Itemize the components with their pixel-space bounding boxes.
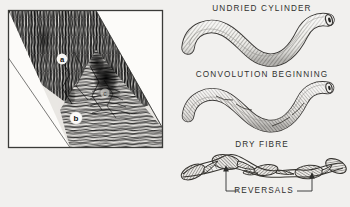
label-dry-fibre: DRY FIBRE: [235, 140, 289, 149]
fibre-stages-svg: [175, 0, 350, 207]
marker-b: b: [70, 112, 82, 124]
label-undried-cylinder: UNDRIED CYLINDER: [212, 4, 311, 13]
micrograph-svg: a c b: [0, 0, 175, 207]
figure-root: a c b: [0, 0, 350, 207]
stage-undried-cylinder: [188, 14, 334, 60]
stage-dry-fibre: [179, 152, 349, 183]
fibre-stages-diagram: UNDRIED CYLINDER CONVOLUTION BEGINNING D…: [175, 0, 350, 207]
label-convolution-beginning: CONVOLUTION BEGINNING: [196, 70, 328, 79]
reversal-leader-right: [297, 190, 312, 191]
label-reversals: REVERSALS: [234, 186, 294, 195]
marker-c: c: [100, 88, 109, 97]
marker-a: a: [57, 54, 68, 65]
micrograph-plate: a c b: [0, 0, 175, 207]
svg-text:b: b: [74, 114, 79, 123]
stage-convolution-beginning: [188, 82, 333, 126]
